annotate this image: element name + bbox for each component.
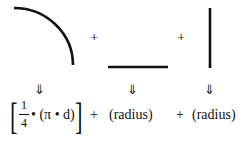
down-arrow-icon: ⇓ [127,83,138,96]
plus-sign-2: + [177,32,185,42]
formula-plus-2: + [176,108,184,122]
quarter-arc [14,8,73,65]
fraction-denominator: 4 [19,116,29,131]
right-bracket: ] [75,97,83,135]
left-bracket: [ [10,97,18,135]
plus-sign-1: + [90,32,98,42]
down-arrow-icon: ⇓ [34,83,45,96]
term-pi-d: • (π • d) [31,108,75,122]
fraction-bar [19,114,29,115]
down-arrow-icon: ⇓ [204,83,215,96]
term-radius-2: (radius) [192,108,236,122]
term-radius-1: (radius) [109,108,153,122]
fraction-numerator: 1 [19,98,29,113]
formula-plus-1: + [90,108,98,122]
